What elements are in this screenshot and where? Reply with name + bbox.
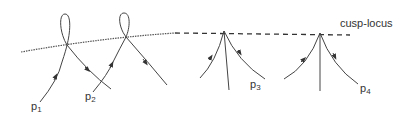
point-label-p2: p2	[85, 90, 96, 104]
point-label-p1: p1	[31, 100, 42, 114]
cusp-locus-diagram: cusp-locus p1 p2 p3 p4	[0, 0, 406, 118]
curve-p1-loop	[40, 14, 111, 102]
locus-dashed-segment	[175, 33, 350, 35]
curve-p2-loop	[93, 13, 167, 92]
cusp-locus-label: cusp-locus	[340, 17, 393, 29]
point-subscript: 3	[256, 83, 260, 92]
point-label-p3: p3	[250, 78, 261, 92]
locus-dotted-segment	[21, 33, 175, 52]
point-subscript: 1	[37, 105, 41, 114]
point-label-p4: p4	[360, 82, 371, 96]
point-subscript: 4	[366, 87, 370, 96]
point-subscript: 2	[91, 95, 95, 104]
cusp-p4	[284, 33, 358, 91]
